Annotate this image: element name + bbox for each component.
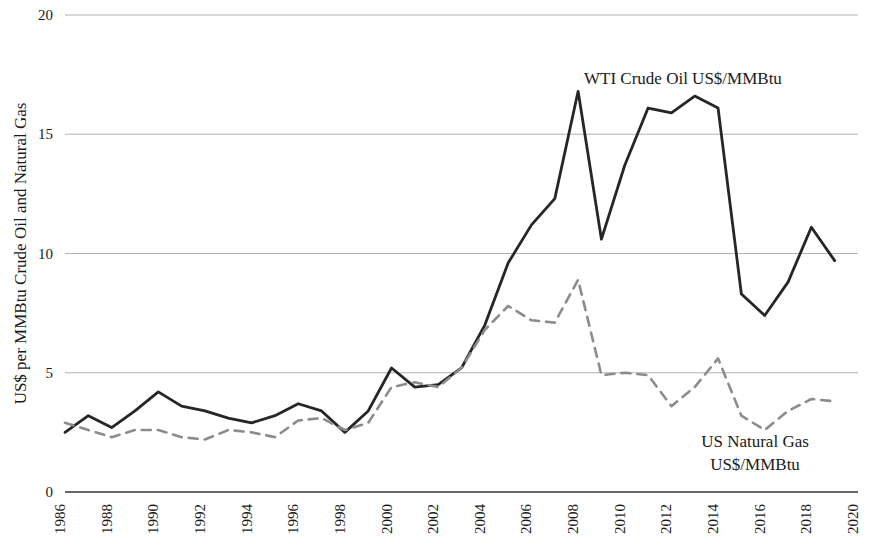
x-tick-label: 2000 (379, 504, 395, 534)
line-chart: 05101520 1986198819901992199419961998200… (0, 0, 870, 556)
y-tick-label: 0 (46, 484, 54, 500)
x-tick-label: 2006 (518, 504, 534, 535)
x-tick-label: 2016 (752, 504, 768, 535)
x-tick-label: 2020 (845, 504, 861, 534)
y-axis-title: US$ per MMBtu Crude Oil and Natural Gas (11, 103, 30, 405)
x-tick-label: 1988 (99, 504, 115, 534)
wti-crude-oil-series-label: WTI Crude Oil US$/MMBtu (584, 69, 782, 88)
x-tick-label: 2004 (472, 503, 488, 534)
x-tick-label: 2010 (612, 504, 628, 534)
x-tick-label: 1996 (285, 504, 301, 535)
y-tick-label: 15 (38, 126, 53, 142)
x-tick-label: 1994 (239, 504, 255, 535)
us-natural-gas-series-label-line1: US Natural Gas (701, 432, 809, 451)
y-tick-label: 5 (46, 365, 54, 381)
x-tick-label: 1998 (332, 504, 348, 534)
x-tick-label: 1986 (52, 504, 68, 535)
x-tick-label: 1992 (192, 504, 208, 534)
y-tick-label: 20 (38, 7, 53, 23)
chart-container: 05101520 1986198819901992199419961998200… (0, 0, 870, 556)
x-tick-label: 2008 (565, 504, 581, 534)
x-tick-label: 2014 (705, 504, 721, 535)
y-tick-label: 10 (38, 246, 53, 262)
x-tick-label: 2002 (425, 504, 441, 534)
x-tick-label: 2012 (658, 504, 674, 534)
x-tick-label: 2018 (798, 504, 814, 534)
x-tick-label: 1990 (145, 504, 161, 534)
us-natural-gas-series-label-line2: US$/MMBtu (710, 455, 800, 474)
